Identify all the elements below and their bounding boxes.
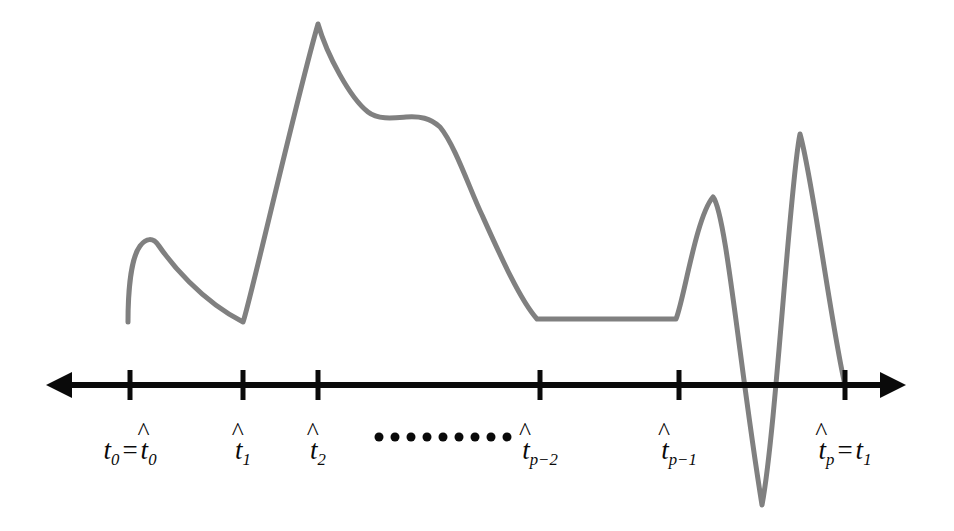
tick-label-t1-hat: ^t1 (235, 437, 251, 469)
ellipsis-dot (375, 433, 384, 442)
tp2-hat-group: ^t (522, 437, 530, 464)
tp-equals: = (834, 435, 855, 465)
hat-accent-icon: ^ (815, 419, 827, 445)
ellipsis-dot (391, 433, 400, 442)
hat-accent-icon: ^ (307, 419, 319, 445)
tp-hat-group: ^t (818, 437, 826, 464)
axis-arrow-left-icon (46, 372, 72, 398)
tp1-hat-group: ^t (661, 437, 669, 464)
ellipsis-dot (423, 433, 432, 442)
t0-hat-subscript: 0 (148, 450, 156, 469)
tick-label-tp-1-hat: ^tp−1 (661, 437, 697, 469)
t2-hat-subscript: 2 (318, 450, 326, 469)
t0-var: t (103, 435, 111, 465)
ellipsis-dot (471, 433, 480, 442)
figure-canvas: t0=^t0 ^t1 ^t2 ^tp−2 ^tp−1 ^tp=t1 (0, 0, 954, 531)
t1-hat-subscript: 1 (243, 450, 251, 469)
hat-accent-icon: ^ (519, 419, 531, 445)
hat-accent-icon: ^ (232, 419, 244, 445)
axis-ellipsis (375, 433, 512, 442)
hat-accent-icon: ^ (137, 419, 149, 445)
tick-label-t0: t0=^t0 (103, 437, 156, 469)
tp2-hat-subscript: p−2 (530, 450, 558, 469)
tp-end-var: t (856, 435, 864, 465)
tp-end-subscript: 1 (863, 450, 871, 469)
ellipsis-dot (439, 433, 448, 442)
tick-label-t2-hat: ^t2 (310, 437, 326, 469)
tick-label-tp-hat: ^tp=t1 (818, 437, 871, 469)
axis-arrow-right-icon (880, 372, 906, 398)
t1-hat-group: ^t (235, 437, 243, 464)
tp-hat-subscript: p (826, 450, 834, 469)
ellipsis-dot (503, 433, 512, 442)
tick-label-tp-2-hat: ^tp−2 (522, 437, 558, 469)
ellipsis-dot (455, 433, 464, 442)
ellipsis-dot (407, 433, 416, 442)
t0-hat-group: ^t (141, 437, 149, 464)
t2-hat-group: ^t (310, 437, 318, 464)
hat-accent-icon: ^ (658, 419, 670, 445)
tp1-hat-subscript: p−1 (669, 450, 697, 469)
ellipsis-dot (487, 433, 496, 442)
t0-subscript: 0 (111, 450, 119, 469)
